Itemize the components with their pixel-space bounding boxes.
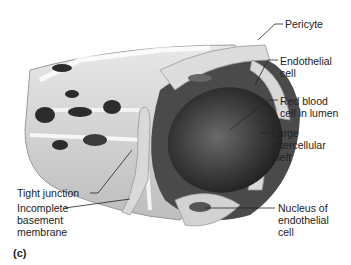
label-nucleus: Nucleus of endothelial cell xyxy=(278,202,329,238)
label-endothelial-cell: Endothelial cell xyxy=(280,55,332,79)
label-basement-membrane: Incomplete basement membrane xyxy=(17,202,68,238)
label-red-blood-cell: Red blood cell in lumen xyxy=(280,95,338,119)
label-intercellular-cleft: Large intercellular cleft xyxy=(272,127,326,163)
panel-label: (c) xyxy=(13,247,26,259)
nucleus-shape xyxy=(189,202,211,212)
label-pericyte: Pericyte xyxy=(285,18,323,30)
label-tight-junction: Tight junction xyxy=(17,187,79,199)
